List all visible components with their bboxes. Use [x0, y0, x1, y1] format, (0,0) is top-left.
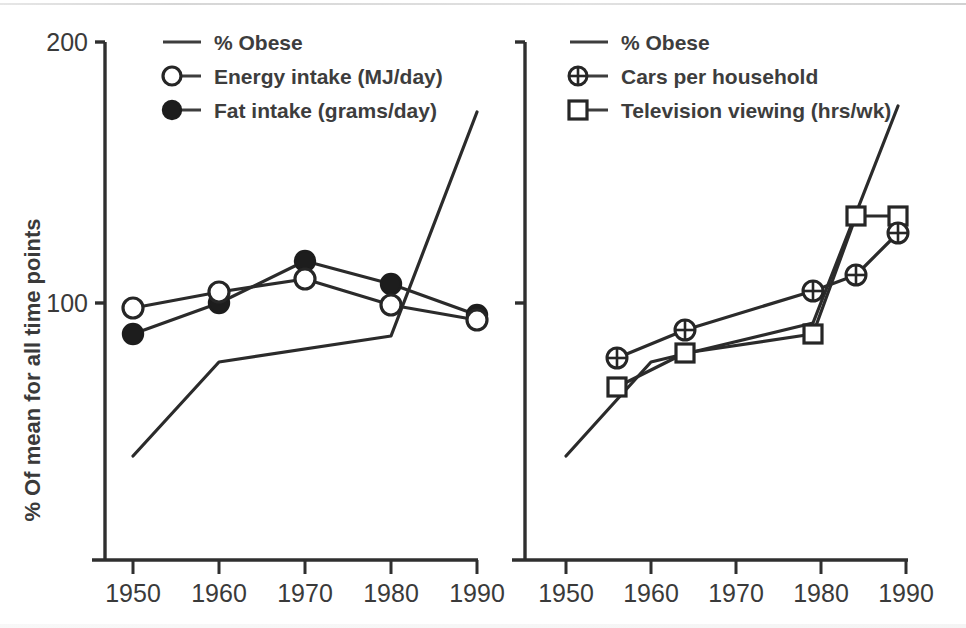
- y-axis-title: % Of mean for all time points: [20, 218, 45, 521]
- left-legend-label-0: % Obese: [214, 31, 303, 54]
- open-circle-icon: [163, 67, 181, 85]
- open-square-icon: [569, 101, 587, 119]
- filled-circle-icon: [163, 101, 181, 119]
- left-xtick-label-1950: 1950: [105, 579, 161, 607]
- right-xtick-label-1950: 1950: [538, 579, 594, 607]
- right-legend: % Obese Cars per household Television vi…: [569, 31, 891, 122]
- right-series-cars-markers: [607, 223, 908, 368]
- left-legend-label-1: Energy intake (MJ/day): [214, 65, 443, 88]
- left-legend-label-2: Fat intake (grams/day): [214, 99, 437, 122]
- left-legend: % Obese Energy intake (MJ/day) Fat intak…: [163, 31, 443, 122]
- left-ytick-label-100: 100: [46, 289, 88, 317]
- right-series-cars-line: [617, 233, 898, 358]
- right-legend-label-1: Cars per household: [621, 65, 818, 88]
- scan-artifact-bottom: [0, 624, 966, 628]
- left-xtick-label-1990: 1990: [449, 579, 505, 607]
- left-xtick-label-1970: 1970: [277, 579, 333, 607]
- right-legend-label-2: Television viewing (hrs/wk): [621, 99, 891, 122]
- left-panel: 200 100 1950 1960 1970 1980 1990 % Of me…: [20, 28, 505, 607]
- scan-artifact-top: [0, 3, 966, 5]
- right-xtick-label-1980: 1980: [793, 579, 849, 607]
- right-xtick-label-1970: 1970: [708, 579, 764, 607]
- right-xtick-label-1990: 1990: [878, 579, 934, 607]
- figure-container: 200 100 1950 1960 1970 1980 1990 % Of me…: [0, 0, 966, 628]
- right-panel: 1950 1960 1970 1980 1990: [512, 31, 934, 607]
- right-legend-label-0: % Obese: [621, 31, 710, 54]
- dual-line-chart: 200 100 1950 1960 1970 1980 1990 % Of me…: [0, 0, 966, 628]
- left-xtick-label-1980: 1980: [363, 579, 419, 607]
- left-xtick-label-1960: 1960: [191, 579, 247, 607]
- right-xtick-label-1960: 1960: [623, 579, 679, 607]
- left-ytick-label-200: 200: [46, 28, 88, 56]
- cross-circle-icon: [569, 67, 587, 85]
